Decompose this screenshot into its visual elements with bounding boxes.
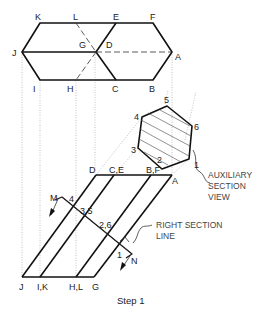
svg-text:A: A — [172, 176, 178, 186]
svg-text:SECTION: SECTION — [208, 181, 246, 191]
svg-text:VIEW: VIEW — [208, 192, 230, 202]
svg-text:M: M — [50, 193, 58, 203]
svg-text:B,F: B,F — [146, 165, 161, 175]
svg-text:H: H — [67, 84, 74, 94]
svg-text:H,L: H,L — [69, 282, 83, 292]
technical-drawing: K L E F J G D A I H C B 5 6 1 2 3 4 AUXI… — [0, 0, 267, 315]
svg-text:I: I — [33, 84, 36, 94]
svg-text:A: A — [175, 52, 181, 62]
svg-text:3: 3 — [131, 145, 136, 155]
svg-text:J: J — [12, 48, 17, 58]
svg-text:K: K — [35, 12, 41, 22]
svg-text:2: 2 — [157, 155, 162, 165]
svg-text:L: L — [73, 12, 78, 22]
svg-text:C: C — [112, 84, 119, 94]
top-view — [22, 23, 172, 80]
svg-text:4: 4 — [134, 112, 139, 122]
svg-text:C,E: C,E — [109, 165, 124, 175]
svg-text:J: J — [19, 282, 24, 292]
svg-text:N: N — [131, 256, 138, 266]
svg-text:G: G — [92, 282, 99, 292]
svg-text:D: D — [106, 40, 113, 50]
svg-text:LINE: LINE — [156, 231, 175, 241]
svg-text:F: F — [150, 12, 156, 22]
svg-text:1: 1 — [194, 160, 199, 170]
svg-text:RIGHT SECTION: RIGHT SECTION — [156, 220, 222, 230]
svg-text:4: 4 — [69, 194, 74, 204]
svg-text:D: D — [89, 165, 96, 175]
step-caption: Step 1 — [117, 295, 144, 306]
svg-text:AUXILIARY: AUXILIARY — [208, 170, 253, 180]
svg-text:1: 1 — [117, 250, 122, 260]
svg-text:6: 6 — [194, 122, 199, 132]
svg-text:2,6: 2,6 — [99, 220, 112, 230]
right-section-note: RIGHT SECTION LINE — [156, 220, 222, 241]
svg-text:5: 5 — [164, 95, 169, 105]
svg-text:G: G — [79, 40, 86, 50]
svg-text:I,K: I,K — [37, 282, 48, 292]
svg-text:B: B — [149, 84, 155, 94]
svg-text:3,5: 3,5 — [80, 206, 93, 216]
auxiliary-section-note: AUXILIARY SECTION VIEW — [208, 170, 253, 202]
svg-text:E: E — [113, 12, 119, 22]
